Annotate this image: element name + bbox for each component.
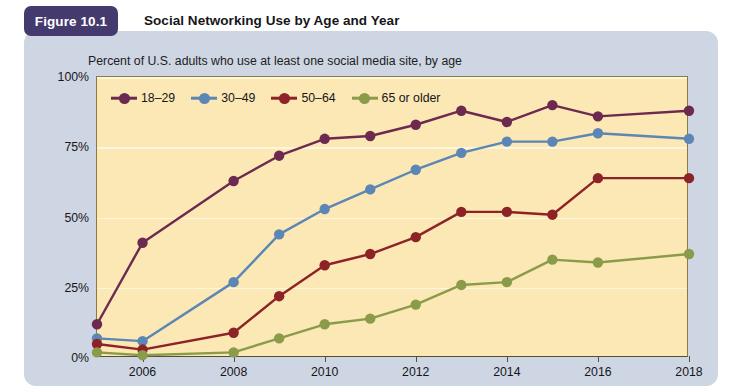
data-point-marker [547,136,557,146]
data-point-marker [593,257,603,267]
legend-label: 18–29 [141,91,175,105]
data-point-marker [365,184,375,194]
chart-subtitle: Percent of U.S. adults who use at least … [88,54,462,68]
x-axis-tick [325,356,326,362]
data-point-marker [274,150,284,160]
data-point-marker [411,165,421,175]
data-point-marker [502,207,512,217]
data-point-marker [274,291,284,301]
data-point-marker [684,106,694,116]
data-point-marker [92,347,102,357]
x-axis-tick-label: 2014 [493,365,520,379]
legend-item[interactable]: 65 or older [352,91,441,105]
figure-title: Social Networking Use by Age and Year [144,13,399,28]
y-axis-tick-label: 50% [64,211,89,225]
legend-marker-icon [111,93,137,104]
data-point-marker [456,207,466,217]
gridline [97,288,687,290]
data-point-marker [92,319,102,329]
data-point-marker [274,333,284,343]
data-point-marker [365,249,375,259]
data-point-marker [411,299,421,309]
data-point-marker [274,229,284,239]
y-axis-tick-label: 0% [71,351,89,365]
figure-number-label: Figure 10.1 [35,14,107,29]
x-axis-tick-label: 2008 [220,365,247,379]
legend-marker-icon [271,93,297,104]
data-point-marker [411,232,421,242]
data-point-marker [319,134,329,144]
data-point-marker [684,134,694,144]
series-line [97,254,689,355]
legend-item[interactable]: 30–49 [191,91,255,105]
data-point-marker [502,117,512,127]
data-point-marker [228,328,238,338]
series-line [97,133,689,341]
x-axis-tick [507,356,508,362]
data-point-marker [502,136,512,146]
x-axis-tick [598,356,599,362]
data-point-marker [502,277,512,287]
data-point-marker [319,319,329,329]
data-point-marker [365,131,375,141]
series-line [97,105,689,324]
data-point-marker [411,120,421,130]
y-axis-tick-label: 25% [64,281,89,295]
figure-container: Figure 10.1 Social Networking Use by Age… [0,0,742,392]
data-point-marker [456,148,466,158]
y-axis-tick-label: 75% [64,140,89,154]
data-point-marker [547,254,557,264]
x-axis-tick-label: 2010 [311,365,338,379]
data-point-marker [684,249,694,259]
legend-item[interactable]: 50–64 [271,91,335,105]
x-axis-tick [689,356,690,362]
data-point-marker [456,280,466,290]
legend-label: 65 or older [382,91,441,105]
x-axis-tick-label: 2012 [402,365,429,379]
figure-number-badge: Figure 10.1 [24,6,118,36]
legend-marker-icon [191,93,217,104]
chart-legend: 18–2930–4950–6465 or older [111,91,440,105]
data-point-marker [319,260,329,270]
legend-label: 30–49 [221,91,255,105]
data-point-marker [547,209,557,219]
data-point-marker [547,100,557,110]
data-point-marker [228,277,238,287]
x-axis-tick [416,356,417,362]
data-point-marker [319,204,329,214]
data-point-marker [593,173,603,183]
data-point-marker [228,347,238,357]
x-axis-tick-label: 2006 [129,365,156,379]
x-axis-tick-label: 2016 [584,365,611,379]
data-point-marker [365,313,375,323]
plot-area: 0%25%50%75%100% 200620082010201220142016… [96,76,688,357]
legend-label: 50–64 [301,91,335,105]
data-point-marker [593,128,603,138]
data-point-marker [137,238,147,248]
data-point-marker [456,106,466,116]
data-point-marker [228,176,238,186]
y-axis-tick-label: 100% [58,70,89,84]
data-point-marker [137,350,147,360]
data-point-marker [684,173,694,183]
data-point-marker [593,111,603,121]
legend-marker-icon [352,93,378,104]
x-axis-tick-label: 2018 [675,365,702,379]
legend-item[interactable]: 18–29 [111,91,175,105]
